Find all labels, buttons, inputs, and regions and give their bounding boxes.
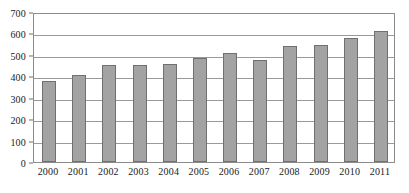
y-axis-tick-label: 100 xyxy=(10,136,26,147)
x-axis-tick-label: 2009 xyxy=(309,166,330,177)
y-axis-tick-mark xyxy=(29,98,33,99)
x-axis-tick-label: 2007 xyxy=(249,166,270,177)
x-axis-tick-label: 2008 xyxy=(279,166,300,177)
x-axis-tick-label: 2011 xyxy=(370,166,390,177)
bar xyxy=(314,45,328,162)
x-axis: 2000200120022003200420052006200720082009… xyxy=(0,166,409,186)
y-axis-tick-mark xyxy=(29,141,33,142)
y-axis-tick-label: 500 xyxy=(10,50,26,61)
x-axis-tick-label: 2010 xyxy=(339,166,360,177)
bar xyxy=(72,75,86,162)
x-axis-tick-label: 2002 xyxy=(98,166,119,177)
y-axis-tick-label: 200 xyxy=(10,115,26,126)
y-axis-tick-label: 400 xyxy=(10,72,26,83)
plot-area xyxy=(33,13,395,163)
x-axis-tick-label: 2005 xyxy=(189,166,210,177)
bar xyxy=(283,46,297,162)
bar xyxy=(163,64,177,162)
bar xyxy=(223,53,237,162)
bar xyxy=(374,31,388,162)
y-axis-tick-mark xyxy=(29,13,33,14)
bar xyxy=(133,65,147,163)
x-axis-tick-label: 2006 xyxy=(219,166,240,177)
bar xyxy=(344,38,358,162)
bar xyxy=(193,58,207,162)
bars-layer xyxy=(34,14,394,162)
x-axis-tick-label: 2001 xyxy=(68,166,89,177)
y-axis: 0100200300400500600700 xyxy=(0,0,33,193)
x-axis-tick-label: 2003 xyxy=(128,166,149,177)
x-axis-tick-label: 2004 xyxy=(158,166,179,177)
bar-chart: 0100200300400500600700 20002001200220032… xyxy=(0,0,409,193)
y-axis-tick-mark xyxy=(29,120,33,121)
y-axis-tick-mark xyxy=(29,77,33,78)
y-axis-tick-mark xyxy=(29,55,33,56)
y-axis-tick-label: 300 xyxy=(10,93,26,104)
x-axis-tick-label: 2000 xyxy=(38,166,59,177)
y-axis-tick-label: 700 xyxy=(10,8,26,19)
bar xyxy=(102,65,116,163)
bar xyxy=(253,60,267,162)
bar xyxy=(42,81,56,162)
y-axis-tick-mark xyxy=(29,163,33,164)
y-axis-tick-label: 600 xyxy=(10,29,26,40)
y-axis-tick-mark xyxy=(29,34,33,35)
